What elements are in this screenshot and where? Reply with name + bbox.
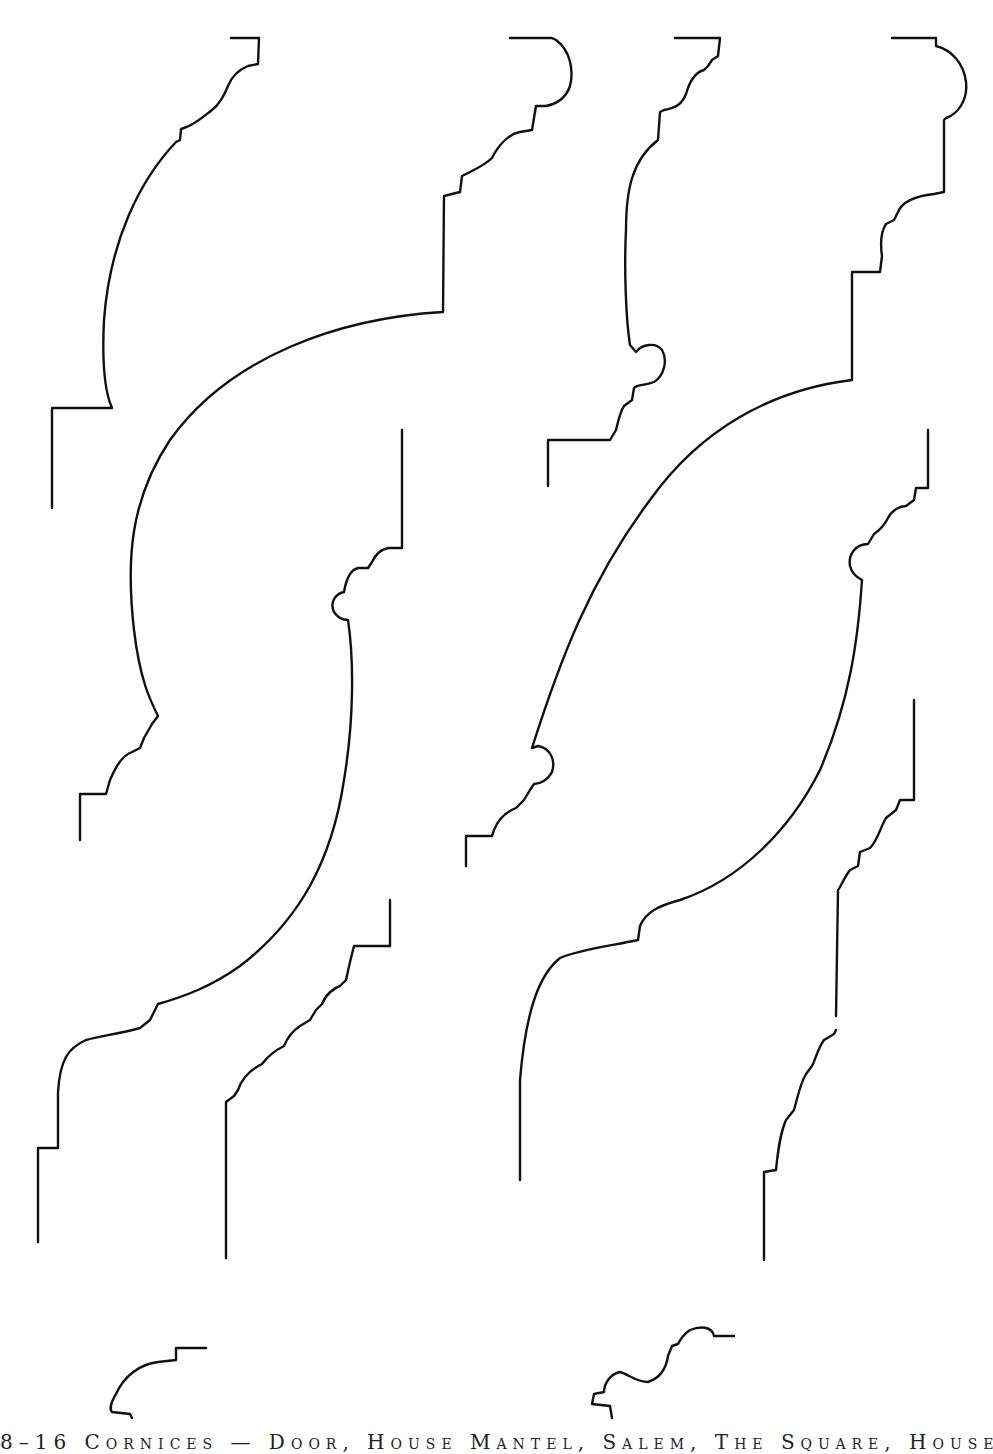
small-profile-9 (111, 1348, 206, 1418)
cornice-profile-3 (548, 38, 720, 486)
cornice-profile-8 (764, 700, 914, 1260)
cornice-profile-1 (52, 38, 259, 508)
cornice-profile-4 (466, 38, 966, 866)
cornice-profile-2 (80, 38, 571, 840)
small-profile-10 (592, 1328, 734, 1418)
cornice-profile-6 (520, 430, 928, 1180)
plate-caption: 8–16 Cornices — Door, House Mantel, Sale… (0, 1430, 993, 1454)
cornice-profile-7 (226, 900, 390, 1258)
cornice-profile-5 (38, 430, 402, 1242)
